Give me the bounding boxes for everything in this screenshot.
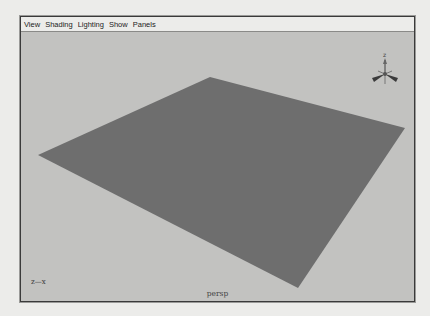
perspective-viewport[interactable]: View Shading Lighting Show Panels z z—x … [20, 16, 415, 302]
view-axis-gizmo-icon[interactable]: z [372, 51, 398, 84]
world-axis-indicator: z—x [31, 278, 46, 286]
camera-name-label: persp [21, 289, 414, 298]
svg-text:z: z [383, 51, 386, 58]
plane-object[interactable] [38, 77, 405, 288]
scene-canvas[interactable]: z [21, 17, 416, 303]
